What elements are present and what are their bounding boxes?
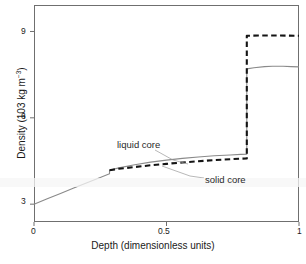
liquid-core-label: liquid core: [117, 140, 160, 150]
y-axis-title-close: ): [16, 67, 27, 70]
x-tick-label-0: 0: [31, 227, 36, 236]
annotation-leader-lines: [155, 150, 204, 178]
x-axis-title: Depth (dimensionless units): [0, 241, 306, 251]
density-depth-chart: 9 6 3 0 0.5 1 Depth (dimensionless units…: [0, 0, 306, 264]
y-tick-label-3: 3: [21, 197, 26, 206]
solid-core-leader-line: [162, 166, 204, 178]
series-curve-liquid-core: [34, 66, 299, 204]
y-axis-title-main: Density (103 kg m: [16, 78, 27, 159]
x-tick-label-0-5: 0.5: [158, 227, 170, 236]
series-curves: [34, 36, 299, 205]
tick-marks: [30, 31, 299, 226]
y-axis-title-exponent: −3: [15, 71, 22, 78]
solid-core-label: solid core: [205, 175, 246, 185]
chart-canvas: [0, 0, 306, 264]
y-axis-title: Density (103 kg m−3): [17, 33, 27, 193]
x-tick-label-1: 1: [297, 227, 302, 236]
